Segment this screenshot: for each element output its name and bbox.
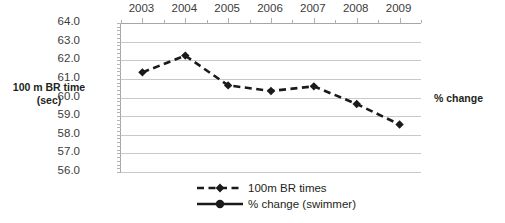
- gridline: [121, 172, 421, 173]
- data-point-marker: [395, 120, 403, 128]
- circle-marker-icon: [196, 197, 244, 211]
- legend: 100m BR times% change (swimmer): [196, 180, 356, 212]
- data-point-marker: [267, 87, 275, 95]
- data-point-marker: [138, 68, 146, 76]
- y-axis-minor-tick: [117, 172, 121, 173]
- diamond-marker-icon: [196, 181, 244, 195]
- chart-container: 100 m BR time (sec) % change 64.063.062.…: [0, 0, 505, 223]
- plot-area: [120, 23, 421, 172]
- legend-item[interactable]: 100m BR times: [196, 180, 356, 196]
- data-point-marker: [310, 82, 318, 90]
- series-plot: [121, 23, 421, 172]
- y-axis-title-right: % change: [434, 92, 504, 105]
- legend-item[interactable]: % change (swimmer): [196, 196, 356, 212]
- x-axis-minor-tick: [421, 20, 422, 23]
- data-point-marker: [353, 100, 361, 108]
- x-axis-tick-label: 2009: [369, 2, 429, 14]
- legend-label: 100m BR times: [248, 182, 327, 194]
- legend-label: % change (swimmer): [248, 198, 356, 210]
